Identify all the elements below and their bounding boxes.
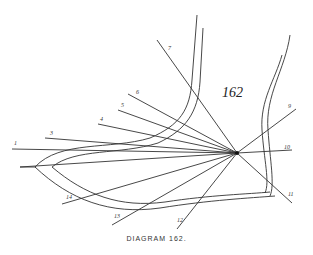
- lower-outline-inner: [52, 167, 270, 203]
- ray-6: [128, 94, 237, 153]
- ray-label: 3: [49, 130, 53, 136]
- ray-label: 14: [66, 194, 72, 200]
- ray-label: 13: [114, 213, 120, 219]
- ray-11: [237, 153, 292, 203]
- ray-label: 10: [284, 144, 290, 150]
- ray-label: 6: [136, 89, 139, 95]
- ray-label: 4: [100, 116, 103, 122]
- ray-label: 7: [168, 45, 172, 51]
- upper-outline-inner: [52, 28, 203, 167]
- ray-12: [177, 153, 237, 229]
- ray-label: 11: [288, 191, 294, 197]
- upper-outline-outer: [35, 15, 197, 167]
- diagram-caption: DIAGRAM 162.: [0, 235, 313, 242]
- diagram-canvas: 13456791011121314: [0, 0, 313, 255]
- ray-labels: 13456791011121314: [14, 45, 294, 223]
- ray-label: 9: [288, 103, 291, 109]
- ray-label: 5: [121, 102, 124, 108]
- ray-13: [112, 153, 237, 225]
- diagram-number: 162: [222, 85, 243, 101]
- ray-label: 12: [177, 217, 183, 223]
- center-point: [235, 151, 239, 155]
- ray-label: 1: [14, 140, 17, 146]
